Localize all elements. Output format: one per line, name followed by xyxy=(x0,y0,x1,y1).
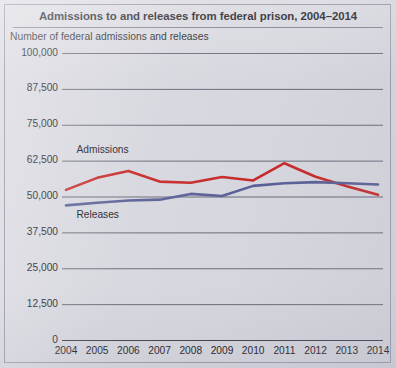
chart-figure: Admissions to and releases from federal … xyxy=(0,0,396,368)
title-divider xyxy=(13,27,383,28)
chart-canvas xyxy=(0,0,396,368)
series-line-admissions xyxy=(66,163,378,195)
series-line-releases xyxy=(66,182,378,205)
